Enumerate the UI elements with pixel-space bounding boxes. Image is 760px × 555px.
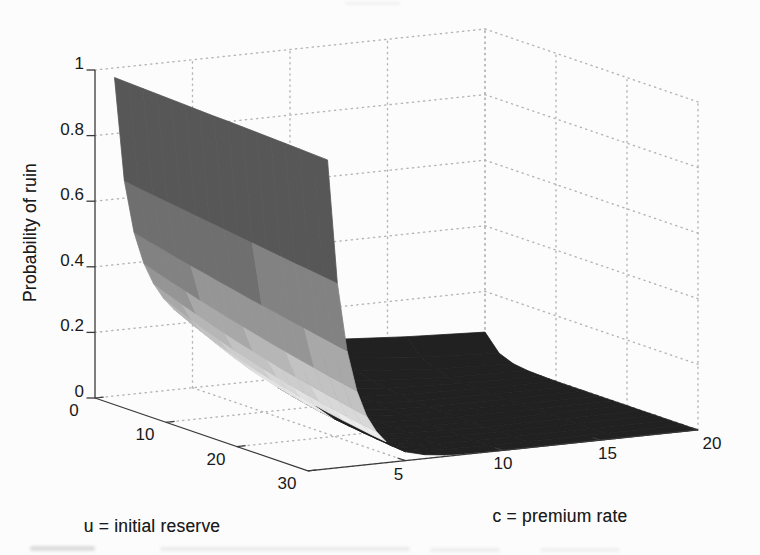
z-tick-label: 0.2 <box>60 316 84 335</box>
c-tick-label: 20 <box>703 434 722 453</box>
z-tick-label: 0.8 <box>60 120 84 139</box>
scanned-figure: 00.20.40.60.8101020305101520 Probability… <box>0 0 760 555</box>
u-axis-title: u = initial reserve <box>32 516 272 537</box>
wall-grid-z <box>485 29 698 102</box>
surface-facet <box>343 357 435 371</box>
scan-artifact <box>30 546 95 551</box>
u-tick-label: 0 <box>69 401 78 420</box>
c-tick-label: 10 <box>494 454 513 473</box>
scan-artifact <box>160 547 410 551</box>
wall-grid-z <box>485 160 698 233</box>
wall-grid-z <box>485 95 698 168</box>
z-tick-label: 1 <box>75 54 84 73</box>
surface-facet <box>407 332 499 357</box>
surface <box>115 78 699 455</box>
scan-artifact <box>345 2 400 5</box>
z-tick-label: 0.6 <box>60 185 84 204</box>
ruin-probability-surface-plot: 00.20.40.60.8101020305101520 <box>0 0 760 555</box>
scan-artifact <box>430 548 500 552</box>
u-tick-label: 10 <box>136 425 155 444</box>
c-tick-label: 15 <box>598 444 617 463</box>
u-tick-label: 30 <box>278 474 297 493</box>
z-tick-label: 0.4 <box>60 251 84 270</box>
c-tick <box>398 458 406 461</box>
z-tick-label: 0 <box>75 382 84 401</box>
c-axis-title: c = premium rate <box>440 506 680 527</box>
u-axis-line <box>95 398 308 471</box>
z-axis-title: Probability of ruin <box>20 133 41 333</box>
wall-grid-z <box>485 226 698 299</box>
c-tick-label: 5 <box>394 465 403 484</box>
wall-grid-z <box>485 291 698 364</box>
u-tick-label: 20 <box>207 450 226 469</box>
scan-artifact <box>540 548 620 552</box>
